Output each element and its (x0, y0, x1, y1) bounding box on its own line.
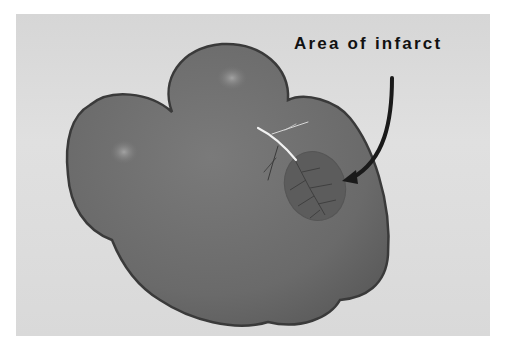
annotation-label: Area of infarct (294, 34, 442, 54)
highlight-top (217, 66, 247, 90)
highlight-left (110, 140, 138, 164)
